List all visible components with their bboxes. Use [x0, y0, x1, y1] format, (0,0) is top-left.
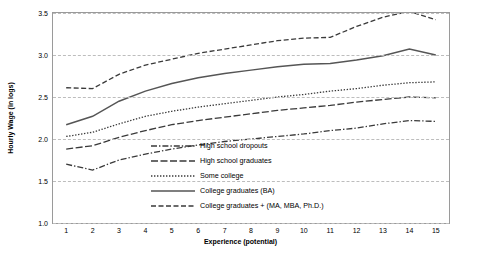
series-line	[66, 13, 436, 89]
x-tick-label: 10	[300, 227, 308, 234]
legend-label: College graduates (BA)	[196, 186, 275, 195]
legend-label: College graduates + (MA, MBA, Ph.D.)	[196, 201, 324, 210]
x-tick-label: 3	[117, 227, 121, 234]
legend: High school dropoutsHigh school graduate…	[150, 138, 380, 213]
legend-line-swatch	[150, 201, 196, 211]
y-tick-label: 2.5	[24, 94, 48, 101]
gridline	[53, 13, 449, 14]
y-tick-label: 3.5	[24, 10, 48, 17]
x-tick-label: 14	[405, 227, 413, 234]
series-line	[66, 49, 436, 125]
legend-label: Some college	[196, 171, 244, 180]
y-axis-label: Hourly Wage (in logs)	[7, 82, 14, 154]
legend-line-swatch	[150, 186, 196, 196]
legend-item: College graduates + (MA, MBA, Ph.D.)	[150, 198, 380, 213]
legend-item: High school graduates	[150, 153, 380, 168]
legend-item: High school dropouts	[150, 138, 380, 153]
y-tick-label: 1.5	[24, 178, 48, 185]
gridline	[53, 223, 449, 224]
legend-label: High school graduates	[196, 156, 272, 165]
x-tick-label: 2	[91, 227, 95, 234]
legend-item: Some college	[150, 168, 380, 183]
series-line	[66, 82, 436, 137]
y-tick-label: 3.0	[24, 52, 48, 59]
y-tick-label: 1.0	[24, 220, 48, 227]
gridline	[53, 55, 449, 56]
x-tick-label: 9	[275, 227, 279, 234]
legend-label: High school dropouts	[196, 141, 268, 150]
x-tick-label: 12	[353, 227, 361, 234]
legend-line-swatch	[150, 141, 196, 151]
x-axis-label: Experience (potential)	[0, 238, 481, 245]
x-tick-label: 7	[223, 227, 227, 234]
x-tick-label: 13	[379, 227, 387, 234]
chart-container: 1.01.52.02.53.03.5 123456789101112131415…	[0, 0, 481, 268]
x-tick-label: 15	[432, 227, 440, 234]
y-tick-label: 2.0	[24, 136, 48, 143]
legend-item: College graduates (BA)	[150, 183, 380, 198]
legend-line-swatch	[150, 156, 196, 166]
x-tick-label: 4	[143, 227, 147, 234]
x-tick-label: 1	[64, 227, 68, 234]
legend-line-swatch	[150, 171, 196, 181]
x-tick-label: 5	[170, 227, 174, 234]
gridline	[53, 97, 449, 98]
x-tick-label: 8	[249, 227, 253, 234]
x-tick-label: 11	[327, 227, 334, 234]
x-tick-label: 6	[196, 227, 200, 234]
